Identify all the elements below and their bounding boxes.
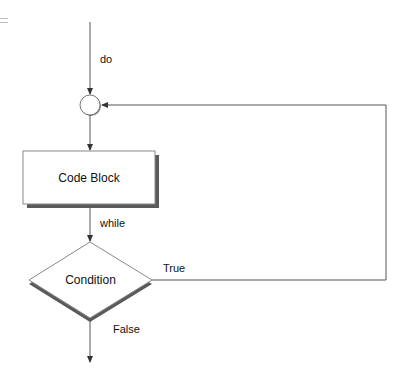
false-label: False [113,323,140,335]
true-label: True [163,262,185,274]
code-block-label: Code Block [23,171,155,185]
do-label: do [100,53,112,65]
junction-node [80,95,101,116]
flowchart-canvas [0,0,409,380]
while-label: while [100,217,125,229]
condition-label: Condition [29,273,152,287]
